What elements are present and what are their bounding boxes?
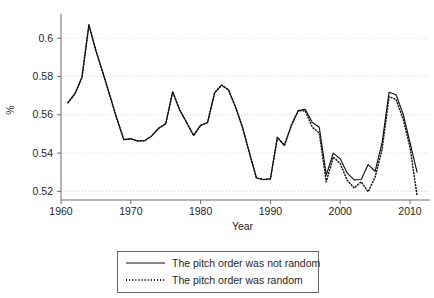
y-tick-label: 0.52 (33, 185, 54, 197)
y-tick-label: 0.6 (38, 32, 53, 44)
series-line-not-random (68, 25, 417, 180)
x-tick-label: 1960 (49, 205, 73, 217)
data-series-group (68, 25, 417, 195)
y-tick-label: 0.56 (33, 108, 54, 120)
x-tick-label: 2010 (398, 205, 422, 217)
chart-figure: 0.520.540.560.580.6 19601970198019902000… (0, 0, 434, 298)
y-axis-title: % (4, 105, 16, 114)
y-tick-label: 0.58 (33, 70, 54, 82)
legend-label-not-random: The pitch order was not random (172, 257, 320, 269)
gridlines (61, 38, 430, 191)
legend-label-random: The pitch order was random (172, 274, 303, 286)
x-tick-label: 1980 (189, 205, 213, 217)
x-tick-label: 2000 (329, 205, 353, 217)
x-axis-ticks: 196019701980199020002010 (49, 200, 422, 217)
axes (61, 14, 430, 200)
chart-legend: The pitch order was not random The pitch… (118, 252, 321, 293)
series-line-random (68, 25, 417, 195)
x-axis-title: Year (232, 220, 254, 232)
y-axis-ticks: 0.520.540.560.580.6 (33, 32, 61, 197)
x-tick-label: 1990 (259, 205, 283, 217)
x-tick-label: 1970 (119, 205, 143, 217)
y-tick-label: 0.54 (33, 147, 54, 159)
line-chart: 0.520.540.560.580.6 19601970198019902000… (0, 0, 434, 298)
